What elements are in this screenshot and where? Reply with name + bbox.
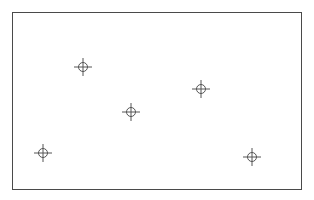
crosshair-circle-icon bbox=[122, 103, 140, 121]
crosshair-circle-icon bbox=[243, 148, 261, 166]
diagram-canvas bbox=[0, 0, 314, 200]
crosshair-circle-icon bbox=[192, 80, 210, 98]
crosshair-circle-icon bbox=[74, 58, 92, 76]
markers-layer bbox=[0, 0, 314, 200]
crosshair-circle-icon bbox=[34, 144, 52, 162]
